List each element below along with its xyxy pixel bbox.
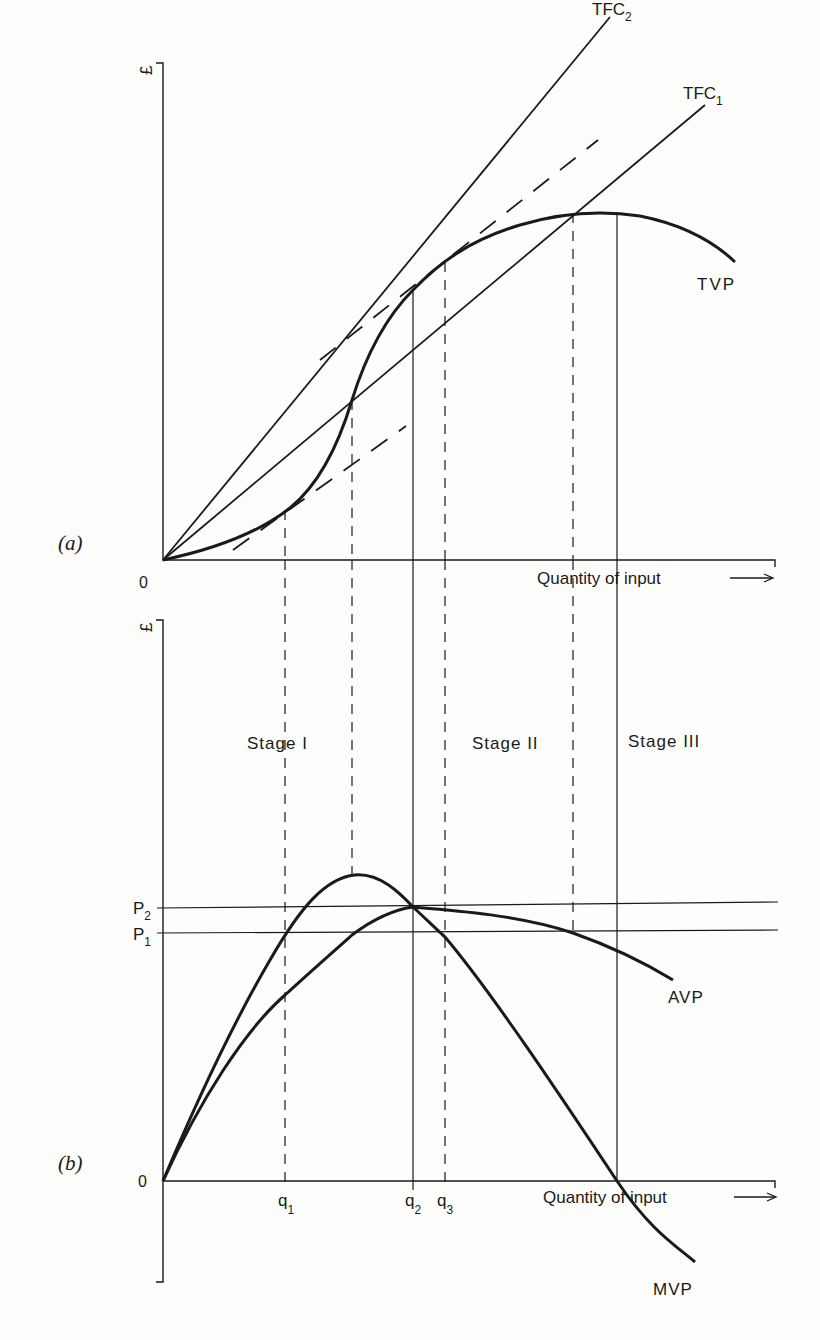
p2-line [157,902,778,908]
tangent-upper-dashed [320,140,598,360]
p1-line [157,930,778,933]
arrow-right-icon [730,574,773,582]
panel-b-x-axis [163,1181,775,1188]
panel-b-label: (b) [58,1151,83,1175]
stage-3-label: Stage III [628,732,700,751]
tfc2-line [163,17,610,560]
origin-b: 0 [138,1173,147,1190]
q2-label: q2 [405,1191,421,1217]
p2-label: P2 [133,899,151,923]
tfc1-label: TFC1 [683,84,723,108]
stage-1-label: Stage I [247,734,308,753]
tvp-curve [163,213,735,560]
q1-label: q1 [278,1191,294,1217]
origin-a: 0 [139,574,148,591]
arrow-right-icon [734,1193,776,1201]
q3-label: q3 [437,1191,453,1217]
panel-b-y-axis [156,620,163,1282]
avp-label: AVP [668,988,704,1007]
y-axis-symbol-a: £ [137,65,156,75]
avp-curve [163,907,673,1181]
x-axis-label-a: Quantity of input [537,569,661,588]
tfc1-line [163,105,705,560]
p1-label: P1 [133,925,151,949]
production-stages-figure: £ TFC2 TFC1 TVP (a) 0 Quantity of input [0,0,820,1340]
panel-a: £ TFC2 TFC1 TVP (a) 0 Quantity of input [58,0,775,591]
x-axis-label-b: Quantity of input [543,1188,667,1207]
mvp-label: MVP [653,1280,693,1299]
panel-b: £ Stage I Stage II Stage III P2 P1 AVP M… [58,560,778,1299]
y-axis-symbol-b: £ [137,622,156,632]
tvp-label: TVP [697,275,736,294]
stage-2-label: Stage II [472,734,539,753]
tfc2-label: TFC2 [592,0,632,24]
panel-a-label: (a) [58,531,83,555]
panel-a-axes [156,63,775,567]
